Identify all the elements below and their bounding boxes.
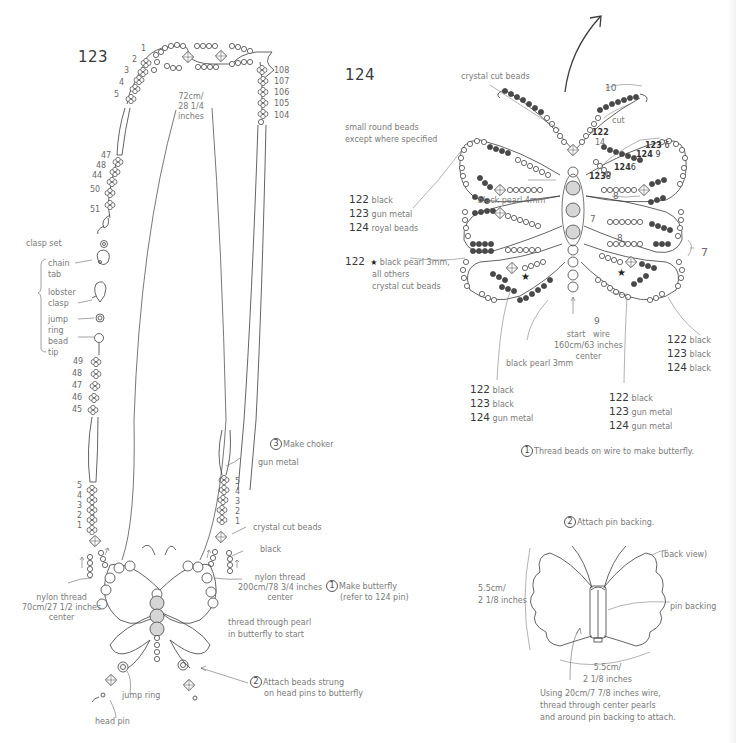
page-edge-shadow [728, 0, 736, 743]
label-start-wire: start wire 160cm/63 inches center [554, 329, 623, 362]
label-jump-ring: jump ring [122, 690, 160, 701]
label-cut: cut [612, 115, 625, 126]
step-number-badge: 3 [270, 438, 282, 450]
note-small-round-beads: small round beads except where specified [345, 122, 437, 146]
butterfly-124-drawing: ★ ★ [410, 16, 700, 383]
svg-text:★: ★ [617, 267, 626, 278]
count-8a: 8 [613, 191, 619, 201]
count-124-9: 124 9 [636, 150, 661, 160]
dimension-width: 5.5cm/ 2 1/8 inches [583, 662, 632, 686]
step-number-badge: 1 [326, 580, 338, 592]
pin-backing-drawing [525, 546, 670, 680]
pin-backing-instructions: Using 20cm/7 7/8 inches wire, thread thr… [540, 688, 676, 724]
step1-make-butterfly: 1Make butterfly (refer to 124 pin) [326, 580, 409, 603]
diagram-artwork: ★ ★ [0, 0, 736, 743]
label-gun-metal: gun metal [258, 457, 299, 468]
label-head-pin: head pin [95, 716, 130, 727]
color-key-mid: 122 black 123 gun metal 124 gun metal [609, 391, 672, 433]
count-8b: 8 [617, 233, 623, 243]
label-crystal-cut-beads: crystal cut beads [253, 522, 322, 533]
label-black: black [260, 544, 281, 555]
label-black-pearl-4mm: black pearl 4mm [478, 195, 545, 206]
step2-attach-beads: 2Attach beads strung on head pins to but… [250, 676, 363, 699]
label-thread-through-pearl: thread through pearl in butterfly to sta… [228, 617, 311, 641]
step-number-badge: 2 [564, 516, 576, 528]
svg-text:★: ★ [521, 271, 530, 282]
count-122: 122 [592, 128, 609, 138]
dimension-height: 5.5cm/ 2 1/8 inches [478, 583, 527, 607]
label-nylon-thread-right: nylon thread 200cm/78 3/4 inches center [238, 573, 322, 603]
clasp-part-chain-tab: chain tab [48, 258, 76, 280]
color-key-main: 122 black 123 gun metal 124 royal beads [349, 193, 418, 235]
count-123-8: 1238 [589, 172, 611, 182]
step2-attach-pin-backing: 2Attach pin backing. [564, 516, 654, 528]
count-124-6: 1246 [614, 163, 636, 173]
diagram-123-title: 123 [78, 48, 108, 66]
count-14: 14 [595, 138, 605, 148]
color-key-right: 122 black 123 black 124 black [667, 333, 711, 375]
star-note: 122 ★ black pearl 3mm, all others crysta… [345, 255, 450, 293]
step-number-badge: 1 [521, 445, 533, 457]
count-10: 10 [605, 83, 616, 93]
clasp-set-heading: clasp set [26, 238, 62, 249]
clasp-part-lobster-clasp: lobster clasp [48, 287, 78, 309]
count-7a: 7 [590, 214, 596, 224]
count-7r: 7 [701, 248, 708, 258]
step3-make-choker: 3Make choker [270, 438, 334, 450]
butterfly-123 [92, 545, 218, 702]
length-label-123: 72cm/ 28 1/4 inches [178, 92, 204, 122]
label-back-view: (back view) [661, 549, 707, 560]
label-pin-backing: pin backing [670, 601, 716, 612]
step1-thread-beads: 1Thread beads on wire to make butterfly. [521, 445, 694, 457]
clasp-part-jump-ring: jump ring [48, 314, 76, 336]
color-key-left: 122 black 123 black 124 gun metal [470, 383, 533, 425]
star-icon: ★ [370, 258, 377, 267]
count-9: 9 [594, 316, 600, 326]
clasp-part-bead-tip: bead tip [48, 336, 76, 358]
label-nylon-thread-left: nylon thread 70cm/27 1/2 inches center [22, 593, 101, 623]
label-crystal-cut-beads-124: crystal cut beads [461, 71, 530, 82]
diagram-124-title: 124 [345, 66, 375, 84]
step-number-badge: 2 [250, 676, 262, 688]
